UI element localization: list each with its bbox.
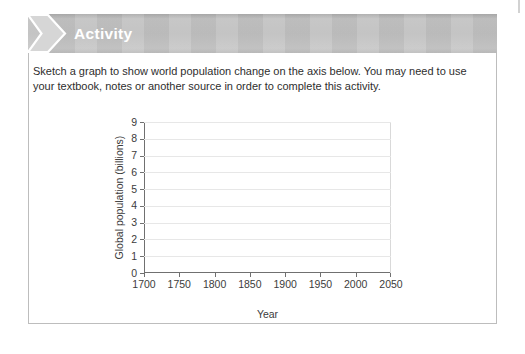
y-tick	[140, 172, 144, 173]
x-tick-label: 1800	[198, 278, 232, 291]
y-tick	[140, 189, 144, 190]
x-tick	[356, 273, 357, 277]
x-tick-label: 1950	[303, 278, 337, 291]
y-tick	[140, 139, 144, 140]
x-tick-label: 2050	[374, 278, 408, 291]
y-gridline	[144, 122, 391, 123]
y-tick-label: 7	[113, 149, 137, 162]
y-gridline	[144, 256, 391, 257]
y-gridline	[144, 239, 391, 240]
x-tick-label: 1700	[127, 278, 161, 291]
y-tick-label: 5	[113, 183, 137, 196]
y-tick	[140, 256, 144, 257]
y-tick-label: 8	[113, 132, 137, 145]
x-tick	[320, 273, 321, 277]
x-axis-title: Year	[237, 308, 298, 320]
population-chart: Global population (billions) Year 012345…	[29, 15, 496, 323]
y-tick-label: 3	[113, 216, 137, 229]
y-gridline	[144, 206, 391, 207]
activity-card: Activity Sketch a graph to show world po…	[28, 14, 497, 324]
plot-area	[144, 122, 391, 273]
y-tick	[140, 206, 144, 207]
y-tick-label: 1	[113, 250, 137, 263]
x-tick-label: 1850	[233, 278, 267, 291]
x-tick	[215, 273, 216, 277]
y-tick	[140, 122, 144, 123]
x-axis-line	[144, 272, 391, 273]
x-tick	[250, 273, 251, 277]
x-tick	[179, 273, 180, 277]
y-tick-label: 2	[113, 233, 137, 246]
y-axis-line	[144, 122, 145, 273]
x-tick-label: 1900	[268, 278, 302, 291]
y-gridline	[144, 223, 391, 224]
y-gridline	[144, 156, 391, 157]
y-tick	[140, 156, 144, 157]
y-gridline	[144, 139, 391, 140]
x-tick-label: 2000	[339, 278, 373, 291]
x-tick	[285, 273, 286, 277]
x-tick	[144, 273, 145, 277]
x-tick-label: 1750	[162, 278, 196, 291]
y-tick-label: 4	[113, 199, 137, 212]
page-edge-line	[518, 0, 520, 13]
y-tick	[140, 239, 144, 240]
y-tick	[140, 223, 144, 224]
y-gridline	[144, 172, 391, 173]
y-tick-label: 9	[113, 116, 137, 129]
y-tick-label: 6	[113, 166, 137, 179]
plot-right-border	[390, 122, 391, 273]
y-gridline	[144, 189, 391, 190]
x-tick	[390, 273, 391, 277]
